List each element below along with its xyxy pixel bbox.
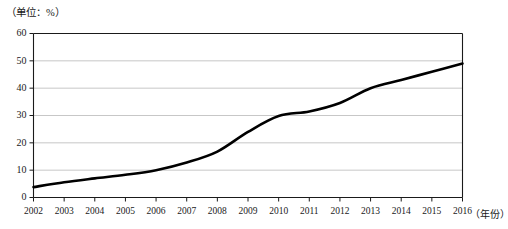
xtick-label-2008: 2008 — [208, 206, 227, 216]
xtick-label-2005: 2005 — [116, 206, 135, 216]
xtick-label-2007: 2007 — [177, 206, 196, 216]
ytick-label-60: 60 — [17, 27, 27, 38]
xtick-label-2011: 2011 — [300, 206, 319, 216]
series-line — [34, 64, 463, 188]
ytick-label-20: 20 — [17, 137, 27, 148]
xtick-label-2012: 2012 — [330, 206, 349, 216]
tick-marks — [30, 34, 463, 202]
xtick-label-2004: 2004 — [85, 206, 104, 216]
xtick-label-2009: 2009 — [239, 206, 258, 216]
ytick-label-50: 50 — [17, 55, 27, 66]
ytick-label-30: 30 — [17, 109, 27, 120]
xtick-label-2006: 2006 — [147, 206, 166, 216]
ytick-label-0: 0 — [22, 191, 27, 202]
ytick-label-40: 40 — [17, 82, 27, 93]
x-axis-title: （年份） — [470, 206, 508, 221]
gridlines — [34, 34, 463, 171]
xtick-label-2015: 2015 — [422, 206, 441, 216]
x-axis-tick-labels: 2002200320042005200620072008200920102011… — [24, 206, 472, 216]
xtick-label-2014: 2014 — [392, 206, 411, 216]
xtick-label-2013: 2013 — [361, 206, 380, 216]
y-axis-tick-labels: 0102030405060 — [17, 27, 27, 202]
ytick-label-10: 10 — [17, 164, 27, 175]
xtick-label-2010: 2010 — [269, 206, 288, 216]
xtick-label-2002: 2002 — [24, 206, 43, 216]
xtick-label-2003: 2003 — [55, 206, 74, 216]
data-series — [34, 64, 463, 188]
